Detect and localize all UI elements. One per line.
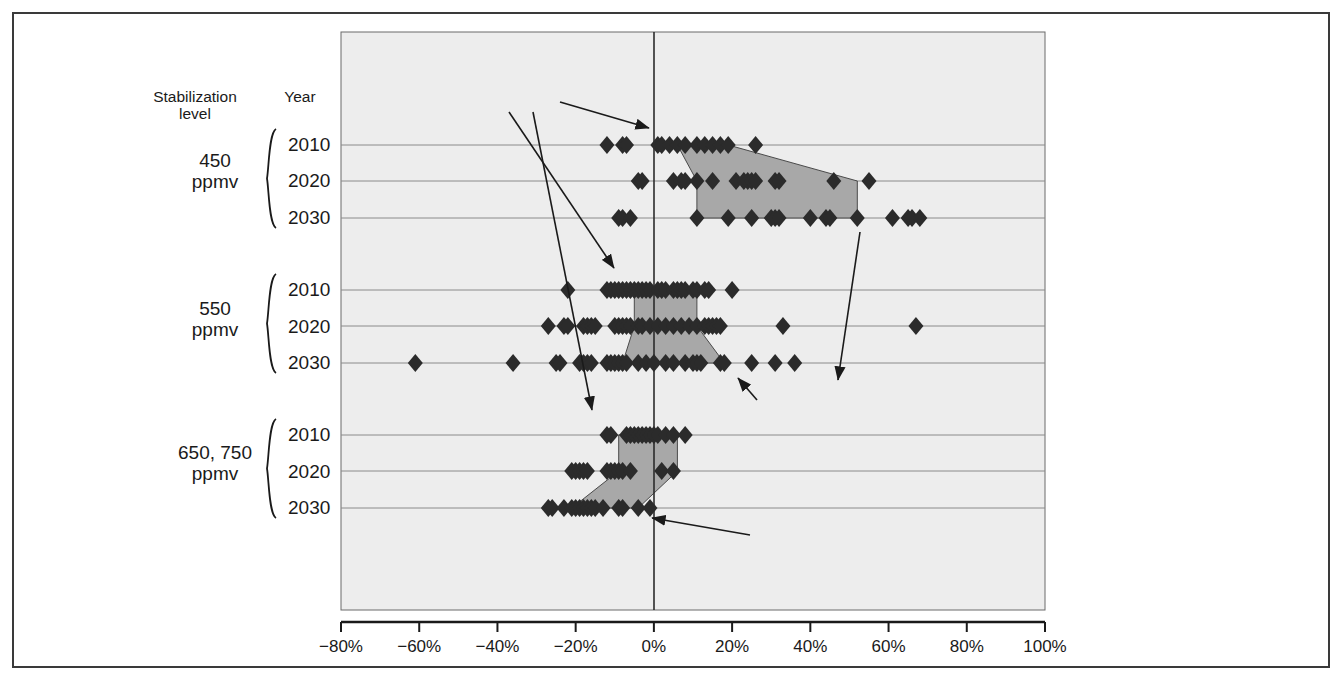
group-brace-2 bbox=[267, 419, 276, 518]
group-braces bbox=[267, 129, 276, 518]
chart-plot-svg bbox=[0, 0, 1344, 683]
x-axis-group bbox=[341, 622, 1045, 632]
x-axis-ticks bbox=[341, 622, 1045, 632]
group-brace-0 bbox=[267, 129, 276, 228]
group-brace-1 bbox=[267, 274, 276, 373]
figure-container: Stabilization level Year 450 ppmv 550 pp… bbox=[0, 0, 1344, 683]
